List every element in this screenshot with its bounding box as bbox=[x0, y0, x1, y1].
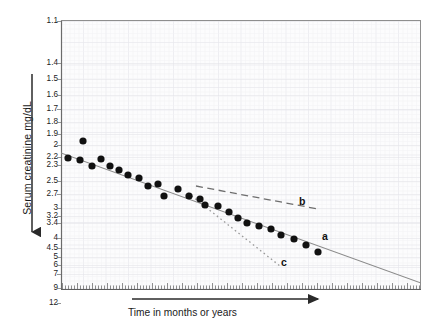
data-point bbox=[97, 155, 104, 162]
data-point bbox=[79, 137, 86, 144]
data-point bbox=[225, 208, 232, 215]
data-point bbox=[243, 219, 250, 226]
data-point bbox=[160, 192, 167, 199]
y-axis-tick-marks bbox=[57, 22, 61, 304]
chart-figure: Serum creatinine mg/dL 1.11.41.51.61.71.… bbox=[0, 0, 426, 329]
data-point bbox=[115, 166, 122, 173]
data-point bbox=[255, 222, 262, 229]
data-point bbox=[267, 225, 274, 232]
data-point bbox=[88, 162, 95, 169]
series-label-b: b bbox=[299, 195, 305, 207]
data-point bbox=[154, 180, 161, 187]
data-point bbox=[201, 201, 208, 208]
plot-canvas bbox=[0, 0, 426, 329]
data-point bbox=[144, 182, 151, 189]
data-point bbox=[314, 248, 321, 255]
data-point bbox=[302, 241, 309, 248]
data-point bbox=[64, 154, 71, 161]
data-point bbox=[290, 235, 297, 242]
data-point bbox=[214, 202, 221, 209]
data-point bbox=[277, 231, 284, 238]
series-label-c: c bbox=[281, 256, 287, 268]
data-point bbox=[124, 171, 131, 178]
data-point bbox=[76, 156, 83, 163]
data-point bbox=[234, 214, 241, 221]
data-point bbox=[196, 195, 203, 202]
grid-lines bbox=[61, 20, 421, 304]
data-point bbox=[185, 192, 192, 199]
series-label-a: a bbox=[322, 230, 328, 242]
data-point bbox=[174, 185, 181, 192]
data-point bbox=[106, 162, 113, 169]
data-point bbox=[135, 174, 142, 181]
